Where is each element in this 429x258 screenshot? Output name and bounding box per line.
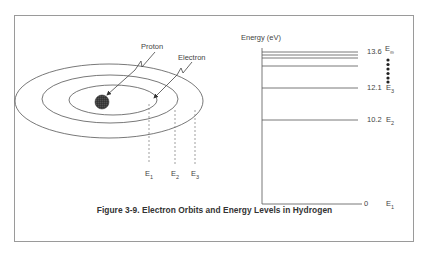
proton-nucleus	[95, 95, 109, 109]
orbit-marker-sub: 1	[150, 174, 153, 180]
level-value-e2: 10.2	[367, 115, 382, 124]
level-name-sub: 2	[391, 120, 394, 126]
level-value-e3: 12.1	[367, 83, 382, 92]
proton-label: Proton	[141, 42, 163, 51]
orbit-marker-e2: E2	[171, 169, 179, 180]
orbit-diagram	[15, 52, 203, 164]
energy-axis-title: Energy (eV)	[241, 33, 281, 42]
orbit-marker-e3: E3	[191, 169, 199, 180]
figure-caption: Figure 3-9. Electron Orbits and Energy L…	[0, 205, 429, 215]
energy-level-diagram	[262, 48, 390, 204]
continuum-dots	[386, 58, 389, 83]
level-name-e2: E2	[386, 115, 394, 126]
figure-drawing	[0, 0, 429, 258]
level-value-einf: 13.6	[367, 47, 382, 56]
orbit-middle	[42, 75, 178, 123]
level-name-e3: E3	[386, 83, 394, 94]
proton-pointer-arrow	[107, 52, 155, 95]
orbit-marker-e1: E1	[145, 169, 153, 180]
orbit-marker-sub: 3	[196, 174, 199, 180]
orbit-marker-sub: 2	[176, 174, 179, 180]
level-name-sub: 3	[391, 88, 394, 94]
level-name-einf: E∞	[385, 44, 394, 55]
electron-label: Electron	[178, 53, 206, 62]
level-name-sub: ∞	[390, 49, 394, 55]
